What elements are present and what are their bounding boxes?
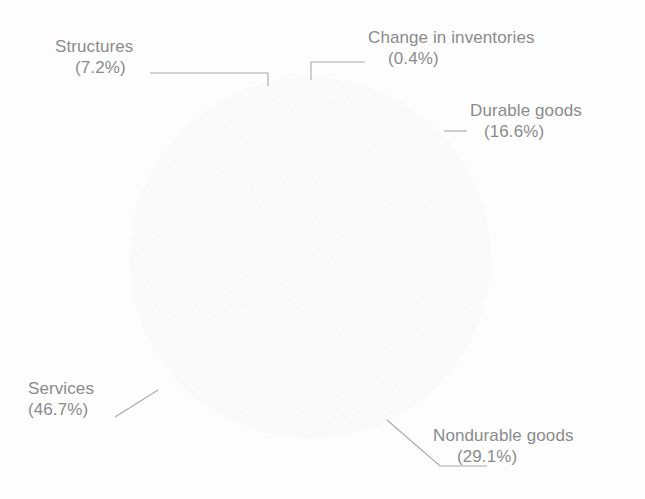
label-durable-goods-pct: (16.6%) — [484, 121, 582, 142]
label-change-in-inventories-pct: (0.4%) — [388, 48, 535, 69]
label-services-name: Services — [28, 379, 94, 398]
label-durable-goods-name: Durable goods — [470, 101, 582, 120]
label-structures-pct: (7.2%) — [75, 57, 133, 78]
label-structures: Structures (7.2%) — [55, 36, 133, 78]
label-nondurable-goods: Nondurable goods (29.1%) — [433, 425, 574, 467]
label-nondurable-goods-pct: (29.1%) — [457, 446, 574, 467]
clipped-caption — [130, 489, 530, 499]
label-change-in-inventories-name: Change in inventories — [368, 28, 535, 47]
label-durable-goods: Durable goods (16.6%) — [470, 100, 582, 142]
label-services: Services (46.7%) — [28, 378, 94, 420]
label-structures-name: Structures — [55, 37, 133, 56]
label-change-in-inventories: Change in inventories (0.4%) — [368, 27, 535, 69]
label-nondurable-goods-name: Nondurable goods — [433, 426, 574, 445]
label-services-pct: (46.7%) — [28, 399, 94, 420]
pie-slices-group — [130, 78, 490, 438]
